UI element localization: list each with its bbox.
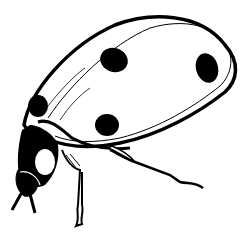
front-leg — [62, 150, 83, 226]
antenna — [12, 192, 22, 210]
head-patch — [35, 149, 55, 175]
ladybug-drawing — [0, 0, 243, 244]
ladybug-illustration — [0, 0, 243, 244]
antenna — [30, 194, 35, 213]
spot — [28, 95, 48, 117]
spot — [95, 114, 119, 136]
